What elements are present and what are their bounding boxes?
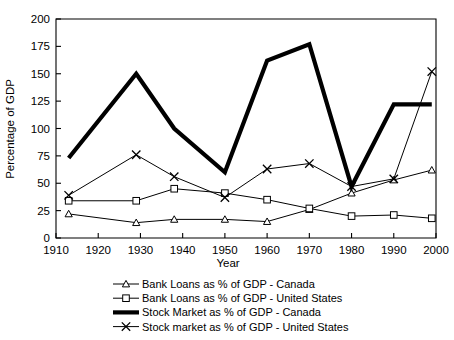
y-tick-label: 25 — [37, 205, 50, 217]
data-point-square — [390, 212, 397, 219]
x-tick-label: 1950 — [212, 244, 238, 256]
x-tick-label: 1910 — [43, 244, 69, 256]
legend-label: Stock market as % of GDP - United States — [142, 321, 349, 333]
data-point-square — [306, 205, 313, 212]
data-point-square — [264, 196, 271, 203]
y-tick-label: 0 — [44, 232, 50, 244]
y-tick-label: 100 — [31, 123, 50, 135]
y-tick-label: 50 — [37, 177, 50, 189]
x-tick-label: 1990 — [381, 244, 407, 256]
legend-item-1[interactable]: Bank Loans as % of GDP - United States — [113, 292, 343, 304]
x-tick-label: 1960 — [254, 244, 280, 256]
data-point-square — [348, 213, 355, 220]
y-tick-label: 150 — [31, 68, 50, 80]
legend-item-2[interactable]: Stock Market as % of GDP - Canada — [113, 306, 322, 318]
line-chart: 0255075100125150175200 19101920193019401… — [0, 0, 454, 340]
legend-item-3[interactable]: Stock market as % of GDP - United States — [113, 321, 349, 333]
x-tick-label: 1930 — [128, 244, 154, 256]
x-tick-label: 1920 — [85, 244, 111, 256]
legend-label: Bank Loans as % of GDP - Canada — [142, 278, 316, 290]
data-point-square — [123, 295, 130, 302]
y-tick-label: 125 — [31, 95, 50, 107]
data-point-square — [171, 185, 178, 192]
x-tick-label: 1970 — [297, 244, 323, 256]
legend-label: Bank Loans as % of GDP - United States — [142, 292, 343, 304]
x-tick-label: 2000 — [423, 244, 449, 256]
x-tick-label: 1940 — [170, 244, 196, 256]
x-tick-label: 1980 — [339, 244, 365, 256]
x-axis-title: Year — [216, 257, 239, 269]
y-tick-label: 75 — [37, 150, 50, 162]
legend-label: Stock Market as % of GDP - Canada — [142, 306, 322, 318]
y-tick-label: 175 — [31, 40, 50, 52]
y-axis-title: Percentage of GDP — [4, 79, 16, 179]
data-point-square — [133, 197, 140, 204]
legend-item-0[interactable]: Bank Loans as % of GDP - Canada — [113, 278, 316, 290]
chart-container: 0255075100125150175200 19101920193019401… — [0, 0, 454, 340]
data-point-square — [428, 215, 435, 222]
y-tick-label: 200 — [31, 13, 50, 25]
